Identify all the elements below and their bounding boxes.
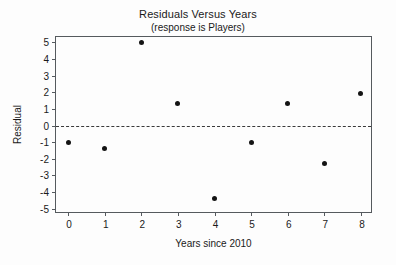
y-axis-tick: -4 (52, 192, 56, 193)
y-axis-tick: -3 (52, 175, 56, 176)
data-point (102, 146, 107, 151)
data-point (212, 196, 217, 201)
data-point (66, 140, 71, 145)
x-axis-tick-label: 1 (96, 218, 116, 231)
y-axis-tick-label: 3 (43, 70, 49, 83)
y-axis-tick-label: 4 (43, 53, 49, 66)
zero-reference-line (56, 126, 371, 127)
y-axis-tick-label: -1 (40, 136, 49, 149)
x-axis-tick: 0 (68, 212, 69, 216)
y-axis-tick: 1 (52, 109, 56, 110)
y-axis-title: Residual (11, 36, 25, 213)
x-axis-tick-label: 6 (279, 218, 299, 231)
data-point (322, 161, 327, 166)
x-axis-tick: 4 (215, 212, 216, 216)
x-axis-tick-label: 8 (352, 218, 372, 231)
data-point (285, 101, 290, 106)
x-axis-tick-label: 5 (242, 218, 262, 231)
x-axis-tick-label: 7 (315, 218, 335, 231)
x-axis-tick-label: 3 (169, 218, 189, 231)
y-axis-tick-label: 1 (43, 103, 49, 116)
x-axis-tick: 5 (251, 212, 252, 216)
y-axis-tick: -1 (52, 142, 56, 143)
y-axis-tick: 4 (52, 59, 56, 60)
x-axis-tick-label: 4 (206, 218, 226, 231)
y-axis-tick-label: -5 (40, 203, 49, 216)
x-axis-tick: 1 (105, 212, 106, 216)
residual-scatter-chart: Residuals Versus Years (response is Play… (0, 0, 396, 265)
x-axis-tick-label: 0 (59, 218, 79, 231)
y-axis-tick: 0 (52, 126, 56, 127)
y-axis-tick-label: -2 (40, 153, 49, 166)
y-axis-tick: -5 (52, 209, 56, 210)
y-axis-tick: 3 (52, 76, 56, 77)
plot-area: 543210-1-2-3-4-5012345678 (56, 37, 371, 212)
y-axis-tick-label: -3 (40, 169, 49, 182)
y-axis-tick-label: 0 (43, 120, 49, 133)
y-axis-tick-label: -4 (40, 186, 49, 199)
x-axis-tick: 8 (361, 212, 362, 216)
y-axis-tick: 2 (52, 92, 56, 93)
chart-subtitle: (response is Players) (0, 22, 396, 33)
data-point (175, 101, 180, 106)
x-axis-tick: 3 (178, 212, 179, 216)
y-axis-tick: -2 (52, 159, 56, 160)
x-axis-title: Years since 2010 (55, 238, 372, 249)
x-axis-tick: 2 (141, 212, 142, 216)
y-axis-tick: 5 (52, 42, 56, 43)
x-axis-tick: 6 (288, 212, 289, 216)
y-axis-tick-label: 2 (43, 86, 49, 99)
x-axis-tick-label: 2 (132, 218, 152, 231)
y-axis-tick-label: 5 (43, 36, 49, 49)
x-axis-tick: 7 (324, 212, 325, 216)
data-point (249, 140, 254, 145)
data-point (139, 40, 144, 45)
plot-frame: 543210-1-2-3-4-5012345678 (55, 36, 372, 213)
chart-title: Residuals Versus Years (0, 8, 396, 20)
data-point (358, 91, 363, 96)
